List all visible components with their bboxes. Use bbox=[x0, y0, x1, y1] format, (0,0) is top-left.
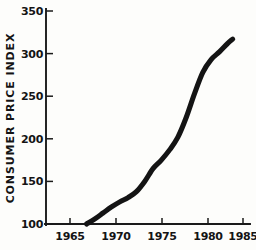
chart-page: 100 150 200 250 300 350 1965 1970 1975 1… bbox=[0, 0, 256, 250]
y-tick-label-150: 150 bbox=[21, 175, 44, 188]
y-tick-label-200: 200 bbox=[21, 133, 44, 146]
y-tick-label-250: 250 bbox=[21, 90, 44, 103]
cpi-data-line bbox=[87, 39, 233, 224]
y-axis-title: CONSUMER PRICE INDEX bbox=[4, 33, 17, 204]
x-axis-tick-labels: 1965 1970 1975 1980 1985 bbox=[55, 230, 256, 243]
x-tick-label-1975: 1975 bbox=[147, 230, 176, 243]
y-tick-label-300: 300 bbox=[21, 48, 44, 61]
y-axis-ticks bbox=[46, 11, 53, 224]
x-tick-label-1970: 1970 bbox=[101, 230, 131, 243]
y-tick-label-100: 100 bbox=[21, 218, 44, 231]
y-tick-label-350: 350 bbox=[21, 5, 44, 18]
x-tick-label-1985: 1985 bbox=[228, 230, 256, 243]
x-tick-label-1980: 1980 bbox=[193, 230, 223, 243]
cpi-line-chart: 100 150 200 250 300 350 1965 1970 1975 1… bbox=[0, 0, 256, 250]
y-axis-tick-labels: 100 150 200 250 300 350 bbox=[21, 5, 44, 231]
x-tick-label-1965: 1965 bbox=[55, 230, 84, 243]
